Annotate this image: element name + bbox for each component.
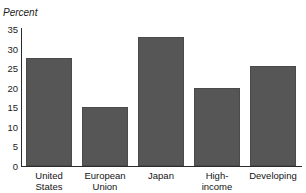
bar-chart-figure: countries, 1995 Percent 05101520253035 U… xyxy=(0,0,306,193)
bar xyxy=(82,107,128,166)
y-axis-tick: 10 xyxy=(7,121,18,132)
plot-area xyxy=(21,29,301,166)
x-axis-category-label: United States xyxy=(21,170,77,192)
y-axis-tick: 15 xyxy=(7,102,18,113)
y-axis-tick: 5 xyxy=(13,141,18,152)
y-axis-tick: 25 xyxy=(7,63,18,74)
y-axis-tick: 30 xyxy=(7,43,18,54)
bar xyxy=(138,37,184,166)
bar xyxy=(194,88,240,166)
x-axis-category-label: Developing xyxy=(245,170,301,181)
y-axis-tick-labels: 05101520253035 xyxy=(0,0,18,193)
x-axis-category-label: High- income xyxy=(189,170,245,192)
x-axis-category-label: Japan xyxy=(133,170,189,181)
y-axis-tick: 20 xyxy=(7,82,18,93)
y-axis-tick: 35 xyxy=(7,24,18,35)
bar xyxy=(26,58,72,166)
x-axis-line xyxy=(21,166,302,167)
x-axis-category-label: European Union xyxy=(77,170,133,192)
bar xyxy=(250,66,296,166)
y-axis-tick: 0 xyxy=(13,161,18,172)
